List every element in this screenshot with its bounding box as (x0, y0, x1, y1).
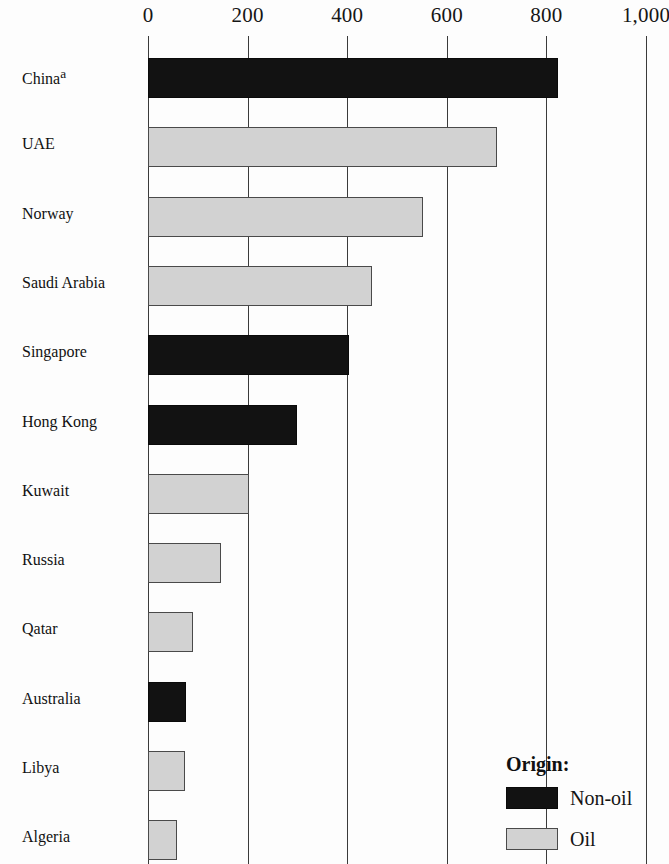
category-label: Saudi Arabia (22, 274, 105, 292)
bar (148, 751, 185, 791)
category-label: Singapore (22, 343, 87, 361)
legend-swatch-oil (506, 828, 558, 850)
x-tick-label: 0 (143, 2, 154, 28)
category-label: Algeria (22, 828, 70, 846)
bar (148, 682, 186, 722)
x-tick-label: 400 (331, 2, 363, 28)
bar (148, 58, 558, 98)
legend-label: Non-oil (570, 786, 632, 810)
legend-label: Oil (570, 827, 596, 851)
category-label: Norway (22, 205, 74, 223)
bar (148, 335, 349, 375)
category-footnote-marker: a (60, 66, 66, 81)
x-tick-label: 200 (232, 2, 264, 28)
category-label: Qatar (22, 620, 58, 638)
gridline-800 (546, 36, 547, 864)
bar (148, 127, 497, 167)
bar (148, 405, 297, 445)
bar (148, 474, 249, 514)
gridline-1000 (646, 36, 647, 864)
x-tick-label: 1,000 (622, 2, 669, 28)
plot-area (148, 36, 646, 864)
category-label: UAE (22, 135, 55, 153)
legend-title: Origin: (506, 752, 669, 776)
legend: Origin: Non-oilOil (506, 752, 669, 864)
category-label: Libya (22, 759, 59, 777)
bar (148, 197, 423, 237)
bar (148, 612, 193, 652)
category-axis: ChinaaUAENorwaySaudi ArabiaSingaporeHong… (0, 36, 140, 864)
category-label: Hong Kong (22, 413, 97, 431)
bar (148, 820, 177, 860)
category-label: Australia (22, 690, 81, 708)
legend-swatch-nonoil (506, 787, 558, 809)
x-tick-label: 600 (431, 2, 463, 28)
bar (148, 266, 372, 306)
bar (148, 543, 221, 583)
legend-item: Oil (506, 827, 669, 850)
category-label: Russia (22, 551, 65, 569)
category-label: Kuwait (22, 482, 69, 500)
legend-item: Non-oil (506, 786, 669, 809)
x-tick-label: 800 (530, 2, 562, 28)
legend-items: Non-oilOil (506, 786, 669, 850)
bar-chart: ChinaaUAENorwaySaudi ArabiaSingaporeHong… (0, 0, 669, 864)
category-label: Chinaa (22, 66, 66, 88)
